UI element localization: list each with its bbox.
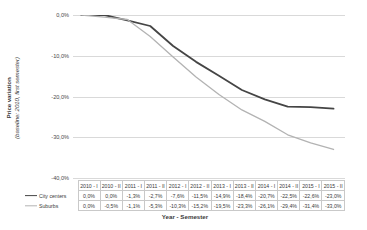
- data-table: 2010 - I2010 - II2011 - I2011 - II2012 -…: [25, 180, 345, 211]
- chart-figure: Price variation (baseline: 2010, first s…: [0, 0, 367, 230]
- column-header: 2010 - I: [78, 181, 100, 191]
- y-axis-title: Price variation (baseline: 2010, first s…: [0, 18, 26, 178]
- table-cell: -2,7%: [144, 191, 166, 201]
- table-cell: -26,1%: [256, 201, 278, 211]
- table-cell: -33,0%: [322, 201, 345, 211]
- column-header: 2013 - I: [211, 181, 233, 191]
- y-axis-tick-label: -30,0%: [33, 134, 69, 140]
- column-header: 2010 - II: [100, 181, 122, 191]
- legend-entry-suburbs: Suburbs: [25, 201, 78, 211]
- column-header: 2015 - I: [300, 181, 322, 191]
- table-cell: -23,0%: [322, 191, 345, 201]
- table-cell: -20,7%: [256, 191, 278, 201]
- table-row: City centers0,0%0,0%-1,3%-2,7%-7,6%-11,5…: [25, 191, 345, 201]
- column-header: 2011 - I: [122, 181, 144, 191]
- series-line-suburbs: [81, 15, 333, 149]
- series-line-city-centers: [81, 15, 333, 109]
- table-cell: 0,0%: [78, 201, 100, 211]
- column-header: 2014 - I: [256, 181, 278, 191]
- table-header-row: 2010 - I2010 - II2011 - I2011 - II2012 -…: [25, 181, 345, 191]
- legend-label: Suburbs: [39, 203, 58, 209]
- table-cell: -0,5%: [100, 201, 122, 211]
- table-cell: 0,0%: [100, 191, 122, 201]
- plot-area: [73, 15, 345, 178]
- y-axis-tick-label: 0,0%: [33, 12, 69, 18]
- table-cell: -1,3%: [122, 191, 144, 201]
- table-cell: -18,4%: [233, 191, 255, 201]
- table-cell: -22,5%: [277, 191, 299, 201]
- table-cell: 0,0%: [78, 191, 100, 201]
- table-cell: -31,4%: [300, 201, 322, 211]
- table-cell: -10,3%: [167, 201, 189, 211]
- column-header: 2012 - II: [189, 181, 211, 191]
- table-cell: -29,4%: [277, 201, 299, 211]
- legend-line-swatch-icon: [25, 195, 37, 197]
- table-row: Suburbs0,0%-0,5%-1,1%-5,3%-10,3%-15,2%-1…: [25, 201, 345, 211]
- column-header: 2014 - II: [277, 181, 299, 191]
- column-header: 2012 - I: [167, 181, 189, 191]
- y-axis-tick-label: -20,0%: [33, 94, 69, 100]
- y-axis-tick-label: -10,0%: [33, 53, 69, 59]
- series-lines: [73, 15, 345, 178]
- legend-label: City centers: [39, 193, 66, 199]
- table-cell: -22,6%: [300, 191, 322, 201]
- table-cell: -14,9%: [211, 191, 233, 201]
- y-axis-title-sub: (baseline: 2010, first semester): [13, 18, 21, 178]
- x-axis-title: Year - Semester: [25, 213, 345, 220]
- table-corner-cell: [25, 181, 78, 191]
- column-header: 2015 - II: [322, 181, 345, 191]
- table-cell: -1,1%: [122, 201, 144, 211]
- legend-entry-city-centers: City centers: [25, 191, 78, 201]
- y-axis-title-main: Price variation: [5, 18, 13, 178]
- gridline: [73, 178, 345, 179]
- table-cell: -7,6%: [167, 191, 189, 201]
- legend-line-swatch-icon: [25, 205, 37, 206]
- table-cell: -5,3%: [144, 201, 166, 211]
- table-body: City centers0,0%0,0%-1,3%-2,7%-7,6%-11,5…: [25, 191, 345, 211]
- column-header: 2013 - II: [233, 181, 255, 191]
- table-cell: -15,2%: [189, 201, 211, 211]
- column-header: 2011 - II: [144, 181, 166, 191]
- table-cell: -19,5%: [211, 201, 233, 211]
- table-cell: -23,3%: [233, 201, 255, 211]
- table-cell: -11,5%: [189, 191, 211, 201]
